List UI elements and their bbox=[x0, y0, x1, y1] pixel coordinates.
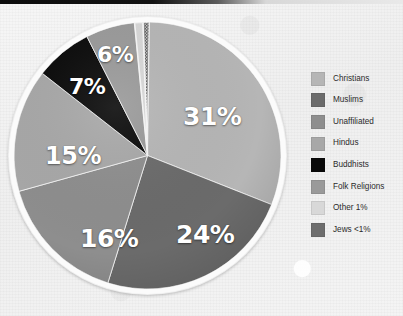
pie-slices bbox=[14, 22, 281, 289]
pie-svg bbox=[14, 22, 281, 289]
legend-label: Jews <1% bbox=[333, 226, 371, 234]
legend-label: Muslims bbox=[333, 96, 363, 104]
pie-chart: 31% 24% 16% 15% 7% 6% bbox=[8, 16, 287, 295]
legend-swatch-icon bbox=[311, 158, 325, 172]
legend-label: Other 1% bbox=[333, 204, 368, 212]
chart-canvas: 31% 24% 16% 15% 7% 6% ChristiansMuslimsU… bbox=[0, 0, 403, 316]
legend-item-unaffiliated[interactable]: Unaffiliated bbox=[311, 111, 403, 133]
legend-item-folk-religions[interactable]: Folk Religions bbox=[311, 176, 403, 198]
legend-label: Unaffiliated bbox=[333, 118, 374, 126]
legend-label: Folk Religions bbox=[333, 183, 384, 191]
chart-legend: ChristiansMuslimsUnaffiliatedHindusBuddh… bbox=[311, 68, 403, 241]
legend-swatch-icon bbox=[311, 137, 325, 151]
legend-item-hindus[interactable]: Hindus bbox=[311, 133, 403, 155]
legend-swatch-icon bbox=[311, 72, 325, 86]
legend-label: Hindus bbox=[333, 139, 359, 147]
legend-swatch-icon bbox=[311, 180, 325, 194]
legend-swatch-icon bbox=[311, 93, 325, 107]
legend-swatch-icon bbox=[311, 223, 325, 237]
legend-swatch-icon bbox=[311, 201, 325, 215]
legend-label: Christians bbox=[333, 75, 369, 83]
legend-item-other-1[interactable]: Other 1% bbox=[311, 198, 403, 220]
legend-label: Buddhists bbox=[333, 161, 369, 169]
legend-item-christians[interactable]: Christians bbox=[311, 68, 403, 90]
top-edge-band bbox=[0, 0, 403, 4]
legend-item-buddhists[interactable]: Buddhists bbox=[311, 154, 403, 176]
legend-item-muslims[interactable]: Muslims bbox=[311, 90, 403, 112]
legend-item-jews-1[interactable]: Jews <1% bbox=[311, 219, 403, 241]
legend-swatch-icon bbox=[311, 115, 325, 129]
